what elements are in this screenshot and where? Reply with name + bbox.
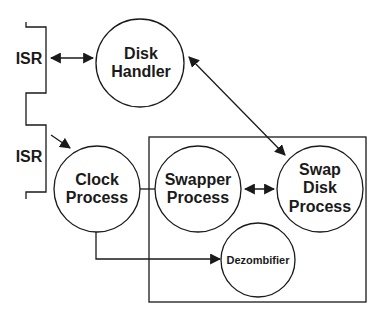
diagram-graphics	[0, 0, 385, 317]
swapper-process-label: Swapper Process	[165, 171, 232, 208]
swap-disk-process-line1: Swap	[289, 161, 351, 179]
clock-process-line2: Process	[66, 189, 128, 207]
disk-handler-swap-disk-arrow	[189, 57, 285, 155]
clock-process-line1: Clock	[66, 171, 128, 189]
isr-bracket	[26, 22, 46, 199]
swapper-process-line2: Process	[165, 189, 232, 207]
disk-handler-line1: Disk	[111, 45, 171, 63]
process-diagram: ISR ISR Disk Handler Clock Process Swapp…	[0, 0, 385, 317]
swap-disk-process-label: Swap Disk Process	[289, 161, 351, 216]
disk-handler-label: Disk Handler	[111, 45, 171, 82]
swap-disk-process-line3: Process	[289, 198, 351, 216]
dezombifier-label: Dezombifier	[227, 254, 290, 267]
isr-clock-arrow	[51, 135, 70, 148]
disk-handler-line2: Handler	[111, 63, 171, 81]
clock-process-label: Clock Process	[66, 171, 128, 208]
swap-disk-process-line2: Disk	[289, 180, 351, 198]
isr-label-2: ISR	[16, 148, 43, 166]
swapper-process-line1: Swapper	[165, 171, 232, 189]
isr-label-1: ISR	[16, 50, 43, 68]
clock-dezombifier-arrow	[96, 232, 220, 259]
